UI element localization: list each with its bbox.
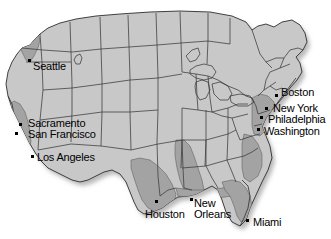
city-label-philadelphia: Philadelphia	[268, 114, 326, 125]
city-marker-sacramento[interactable]	[19, 123, 22, 126]
city-label-san-francisco: San Francisco	[28, 129, 96, 140]
city-label-new-orleans: New Orleans	[194, 198, 238, 220]
city-marker-boston[interactable]	[275, 94, 278, 97]
city-marker-los-angeles[interactable]	[31, 155, 34, 158]
city-label-seattle: Seattle	[33, 61, 66, 72]
us-city-map: SeattleSacramentoSan FranciscoLos Angele…	[0, 0, 331, 239]
city-marker-houston[interactable]	[155, 200, 158, 203]
city-label-los-angeles: Los Angeles	[37, 152, 95, 163]
city-label-boston: Boston	[281, 87, 314, 98]
city-marker-san-francisco[interactable]	[15, 132, 18, 135]
city-label-washington: Washington	[264, 126, 320, 137]
city-marker-washington[interactable]	[257, 128, 260, 131]
city-marker-miami[interactable]	[246, 219, 249, 222]
city-marker-new-york[interactable]	[265, 107, 268, 110]
city-marker-philadelphia[interactable]	[260, 116, 263, 119]
city-label-houston: Houston	[145, 209, 185, 220]
city-marker-seattle[interactable]	[28, 59, 31, 62]
city-label-miami: Miami	[253, 217, 281, 228]
city-marker-new-orleans[interactable]	[190, 198, 193, 201]
